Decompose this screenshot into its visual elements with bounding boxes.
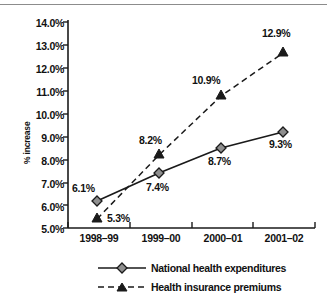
x-tick-label: 2000–01	[192, 232, 254, 244]
data-label-hip-4: 12.9%	[262, 27, 290, 39]
data-label-nhe-3: 8.7%	[208, 155, 231, 167]
series-line-health-insurance-premiums	[97, 53, 283, 219]
x-axis-ticks	[68, 222, 315, 228]
chart-legend: National health expenditures Health insu…	[0, 258, 327, 296]
data-label-hip-3: 10.9%	[192, 74, 220, 86]
data-label-nhe-2: 7.4%	[146, 181, 169, 193]
series-line-national-health-expenditures	[97, 132, 283, 201]
legend-label: Health insurance premiums	[151, 281, 281, 293]
legend-key-triangle-dashed-icon	[98, 280, 146, 294]
chart-container: % increase 14.0% 13.0% 12.0% 11.0% 10.0%…	[0, 0, 327, 304]
data-label-nhe-4: 9.3%	[269, 138, 292, 150]
x-tick-label: 2001–02	[253, 232, 315, 244]
data-label-nhe-1: 6.1%	[72, 182, 95, 194]
legend-item-health-insurance-premiums: Health insurance premiums	[0, 277, 327, 296]
legend-key-diamond-solid-icon	[98, 261, 146, 275]
data-label-hip-2: 8.2%	[139, 134, 162, 146]
legend-label: National health expenditures	[151, 262, 286, 274]
data-label-hip-1: 5.3%	[107, 212, 130, 224]
series-markers-health-insurance-premiums	[92, 47, 288, 222]
legend-item-national-health-expenditures: National health expenditures	[0, 258, 327, 277]
x-tick-label: 1999–00	[130, 232, 192, 244]
x-tick-label: 1998–99	[68, 232, 130, 244]
